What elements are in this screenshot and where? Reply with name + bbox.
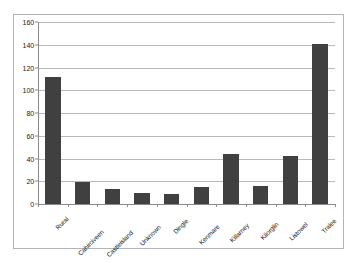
bar [134, 193, 149, 204]
x-tick-mark [187, 204, 188, 207]
x-tick-mark [127, 204, 128, 207]
bars-group [38, 22, 335, 204]
y-tick-label: 0 [30, 201, 34, 208]
bar [253, 186, 268, 204]
bar [164, 194, 179, 204]
y-tick-label: 160 [23, 19, 34, 26]
x-tick-mark [157, 204, 158, 207]
y-tick-label: 20 [26, 178, 34, 185]
y-tick-label: 80 [26, 110, 34, 117]
y-tick-label: 120 [23, 64, 34, 71]
x-tick-mark [216, 204, 217, 207]
x-tick-mark [97, 204, 98, 207]
x-tick-mark [335, 204, 336, 207]
bar [223, 154, 238, 204]
x-tick-mark [305, 204, 306, 207]
x-tick-mark [246, 204, 247, 207]
x-tick-mark [38, 204, 39, 207]
bar-chart-figure: 020406080100120140160 RuralCahirciveenCa… [0, 0, 357, 263]
bar [45, 77, 60, 204]
bar [194, 187, 209, 204]
bar [312, 44, 327, 204]
y-tick-label: 140 [23, 41, 34, 48]
y-tick-label: 60 [26, 132, 34, 139]
bar [75, 182, 90, 204]
bar [105, 189, 120, 204]
bar [283, 156, 298, 204]
x-tick-mark [276, 204, 277, 207]
y-tick-label: 100 [23, 87, 34, 94]
y-tick-label: 40 [26, 155, 34, 162]
x-tick-mark [68, 204, 69, 207]
